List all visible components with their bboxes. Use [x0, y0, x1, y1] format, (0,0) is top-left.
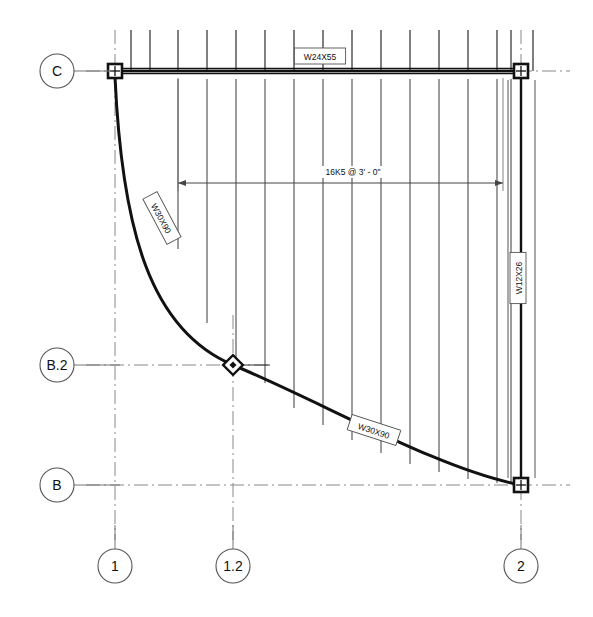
beam-label-beam-right[interactable]: W12X26: [510, 252, 526, 303]
grid-bubble-1[interactable]: 1: [98, 525, 132, 583]
grid-bubble-B-2[interactable]: B.2: [40, 348, 120, 382]
bubble-label: C: [52, 63, 62, 79]
dimension-16k5: 16K5 @ 3' - 0": [178, 78, 503, 191]
beam-label-beam-top[interactable]: W24X55: [294, 48, 345, 64]
beam-top-w24x55[interactable]: [115, 69, 521, 74]
column-group: [108, 64, 528, 492]
grid-bubble-1-2[interactable]: 1.2: [216, 525, 250, 583]
bubble-label: 1: [111, 558, 119, 574]
bubble-label: B.2: [46, 357, 67, 373]
beam-label-text: W24X55: [304, 52, 337, 62]
grid-bubble-B[interactable]: B: [40, 468, 120, 502]
beam-label-beam-curve-lower[interactable]: W30X90: [347, 414, 401, 445]
grid-bubble-2[interactable]: 2: [504, 525, 538, 583]
bubble-label: 1.2: [223, 558, 243, 574]
dimension-arrow-right: [495, 180, 503, 186]
beam-label-text: W12X26: [514, 261, 524, 294]
beam-label-beam-curve-upper[interactable]: W30X90: [143, 192, 181, 245]
dimension-arrow-left: [178, 180, 186, 186]
joist-group: [178, 79, 511, 484]
framing-plan-drawing: 16K5 @ 3' - 0" CB.2B11.22 W24X55W12X26W3…: [0, 0, 593, 617]
beam-label-group: W24X55W12X26W30X90W30X90: [143, 48, 526, 446]
bubble-label: 2: [517, 558, 525, 574]
dimension-text: 16K5 @ 3' - 0": [326, 167, 381, 177]
bubble-label: B: [52, 477, 61, 493]
beam-curved-w30x90[interactable]: [115, 77, 521, 485]
grid-bubble-C[interactable]: C: [40, 54, 112, 88]
